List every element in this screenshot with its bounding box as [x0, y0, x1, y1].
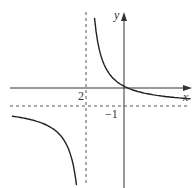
tick-label-horizontal-asymptote: −1: [105, 107, 118, 121]
y-axis-label: y: [113, 8, 120, 22]
tick-label-vertical-asymptote: 2: [78, 89, 84, 103]
x-axis-label: x: [182, 90, 189, 104]
y-axis-arrow-icon: [121, 12, 127, 21]
curve-upper-right-branch: [95, 18, 191, 99]
curve-lower-left-branch: [12, 116, 77, 185]
hyperbola-chart: 2−1yx: [0, 0, 196, 188]
